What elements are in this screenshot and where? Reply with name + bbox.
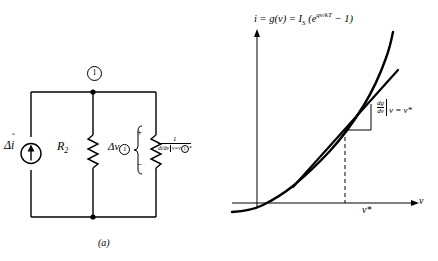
y-axis-arrowhead <box>254 29 260 37</box>
diode-iv-curve-plot <box>219 0 438 261</box>
node-dot-bottom <box>90 214 95 219</box>
x-axis-arrowhead <box>411 200 419 206</box>
current-source-symbol <box>21 144 41 164</box>
polarity-minus-label: − <box>137 160 142 169</box>
x-tick-label-vstar: v* <box>362 205 371 215</box>
eval-equals: = <box>395 105 401 115</box>
delta-v-text: Δv <box>108 140 119 152</box>
equation-equals-1: = <box>260 13 267 24</box>
figure-root: 1 Δˆi R2 Δv1 + − 1 di/dvv=v1* (a) <box>0 0 438 261</box>
caption-panel-a: (a) <box>98 237 110 248</box>
panel-a-circuit: 1 Δˆi R2 Δv1 + − 1 di/dvv=v1* (a) <box>0 0 219 261</box>
derivative-di-dv: di/dv <box>158 145 169 151</box>
resistor-r2-symbol <box>88 135 98 168</box>
resistor-subscript: 2 <box>64 146 68 155</box>
equation-g-of-v: g(v) <box>269 13 286 24</box>
equation-saturation-subscript: S <box>302 19 306 27</box>
equation-minus-one: − 1 <box>335 13 350 24</box>
curve-equation-label: i = g(v) = IS (eqv/kT − 1) <box>254 12 353 27</box>
equation-exponent: qv/kT <box>316 11 332 19</box>
small-signal-resistance-expression: 1 di/dvv=v1* <box>158 136 191 153</box>
derivative-numerator: dg <box>377 100 384 107</box>
equation-equals-2: = <box>289 13 296 24</box>
evaluation-bar <box>170 145 171 152</box>
fraction-denominator: di/dvv=v1* <box>158 144 191 153</box>
branch-voltage-label: Δv1 <box>108 141 130 155</box>
panel-b-plot: i = g(v) = IS (eqv/kT − 1) v v* dg dv v … <box>219 0 438 261</box>
eval-variable: v <box>389 105 393 115</box>
resistor-r2-label: R2 <box>57 140 68 155</box>
eval-value: v* <box>404 105 413 115</box>
node-number-1: 1 <box>87 66 102 81</box>
eval-star: * <box>189 145 192 151</box>
polarity-plus-label: + <box>137 128 142 137</box>
evaluation-bar <box>386 99 387 116</box>
slope-annotation: dg dv v = v* <box>377 99 412 116</box>
node-index-circle: 1 <box>119 144 130 155</box>
derivative-fraction: dg dv <box>377 100 384 115</box>
delta-symbol: Δ <box>4 138 11 152</box>
hat-accent: ˆ <box>11 133 14 142</box>
derivative-denominator: dv <box>377 108 384 115</box>
current-source-label: Δˆi <box>4 139 14 151</box>
equation-lhs: i <box>254 13 257 24</box>
tangent-line <box>293 70 398 187</box>
node-dot-top <box>90 89 95 94</box>
x-axis-label: v <box>419 196 423 206</box>
fraction-numerator: 1 <box>158 136 191 143</box>
equation-close-paren: ) <box>349 13 353 24</box>
evaluation-condition: v = v* <box>389 106 412 115</box>
exponential-curve <box>232 32 393 212</box>
eval-node-circle: 1 <box>181 145 189 153</box>
circuit-schematic <box>0 0 219 261</box>
